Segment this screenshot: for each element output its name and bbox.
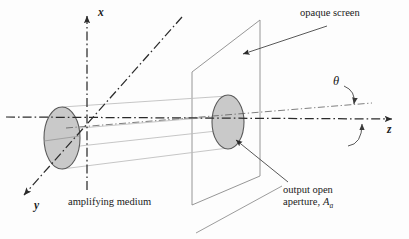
output-aperture-label-line2: aperture,Aa [283, 196, 333, 211]
amplifying-medium-label: amplifying medium [68, 196, 151, 208]
optics-diagram-figure: x y z θ opaque screen amplifying medium … [0, 0, 409, 239]
output-aperture-label-text: aperture, [283, 196, 320, 207]
output-aperture-label-line1: output open [283, 184, 333, 196]
divergence-angle-label: θ [333, 74, 339, 88]
z-axis-pointer-arrow [348, 124, 362, 146]
output-aperture-subscript: a [329, 201, 333, 210]
output-aperture-label: output open aperture,Aa [283, 184, 333, 211]
divergence-angle-arrow [344, 86, 354, 104]
z-axis-label: z [387, 123, 391, 136]
x-axis-label-text: x [98, 6, 104, 18]
x-axis-label: x [98, 6, 104, 19]
y-axis-label-text: y [34, 199, 39, 211]
diagram-canvas [0, 0, 409, 239]
opaque-screen-label: opaque screen [300, 7, 360, 19]
z-axis-label-text: z [387, 123, 391, 135]
y-axis [24, 17, 182, 195]
y-axis-label: y [34, 199, 39, 212]
output-open-aperture [212, 95, 244, 149]
